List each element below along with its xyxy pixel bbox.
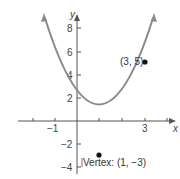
y-ticks [77,28,81,167]
x-axis-label: x [172,123,179,134]
vertex-label: Vertex: (1, −3) [83,157,146,168]
y-tick-label: −4 [61,162,73,173]
curve-arrow-icon [151,13,157,22]
y-tick-label: 8 [67,23,73,34]
y-axis-label: y [69,9,76,20]
x-tick-label: 3 [142,123,148,134]
y-tick-label: −2 [61,139,73,150]
y-tick-label: 6 [67,47,73,58]
curve-arrow-icon [41,13,47,22]
parabola-chart: −1 3 8 6 4 2 −2 −4 x y (3, 5) Vertex: (1… [0,0,180,179]
point-label: (3, 5) [120,56,143,67]
x-tick-label: −1 [47,123,59,134]
y-tick-label: 2 [67,93,73,104]
